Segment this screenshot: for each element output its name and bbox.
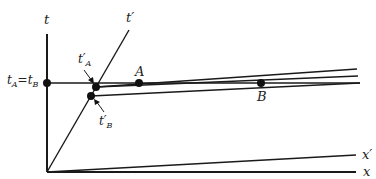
event-B-label: B xyxy=(256,89,267,104)
event-B-dot xyxy=(257,79,265,87)
event-A-dot xyxy=(135,79,143,87)
spacetime-diagram: t t′ x x′ tA=tB t′A t′B A B xyxy=(0,0,376,179)
tB-prime-label: t′B xyxy=(99,114,113,130)
arrow-tB-prime-head xyxy=(94,99,100,105)
tA-prime-label: t′A xyxy=(78,52,92,68)
event-tA-prime-dot xyxy=(92,83,100,91)
event-A-label: A xyxy=(134,64,144,79)
t-prime-axis xyxy=(47,30,129,172)
t-axis-label: t xyxy=(44,12,50,27)
x-prime-axis-label: x′ xyxy=(362,147,372,162)
x-prime-axis xyxy=(47,155,356,172)
x-axis-label: x xyxy=(363,164,371,179)
event-tA-tB-dot xyxy=(43,79,51,87)
event-tB-prime-dot xyxy=(87,92,95,100)
tA-eq-tB-label: tA=tB xyxy=(7,73,39,89)
t-prime-axis-label: t′ xyxy=(126,10,134,25)
